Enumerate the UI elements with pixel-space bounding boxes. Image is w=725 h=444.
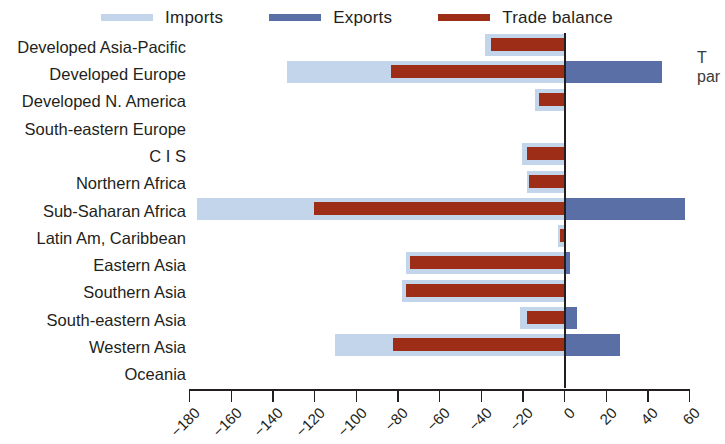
- legend-label-imports: Imports: [165, 9, 223, 26]
- plot-area: [189, 33, 689, 388]
- bar-balance-1: [391, 65, 564, 78]
- bar-row: [189, 115, 689, 142]
- bar-balance-10: [527, 311, 565, 324]
- legend-swatch-exports: [269, 14, 321, 21]
- bar-row: [189, 170, 689, 197]
- category-label-6: Sub-Saharan Africa: [0, 203, 186, 220]
- cropped-side-note: T par: [697, 48, 725, 86]
- x-tick-label-0: −180: [147, 404, 203, 444]
- bar-row: [189, 60, 689, 87]
- bar-balance-5: [529, 175, 564, 188]
- x-tick-5: [397, 389, 398, 402]
- x-tick-9: [564, 389, 565, 402]
- bar-exports-1: [564, 61, 662, 83]
- legend-swatch-imports: [101, 14, 153, 21]
- x-tick-8: [522, 389, 523, 402]
- legend-label-balance: Trade balance: [502, 9, 613, 26]
- bar-balance-11: [393, 338, 564, 351]
- bar-balance-2: [539, 93, 564, 106]
- x-tick-12: [689, 389, 690, 402]
- legend-item-imports: Imports: [101, 9, 223, 26]
- category-label-7: Latin Am, Caribbean: [0, 230, 186, 247]
- bar-row: [189, 142, 689, 169]
- bar-row: [189, 33, 689, 60]
- side-note-line-1: T: [697, 48, 725, 67]
- bar-row: [189, 306, 689, 333]
- bar-row: [189, 251, 689, 278]
- chart-legend: ImportsExportsTrade balance: [0, 4, 714, 30]
- zero-axis-line: [564, 33, 566, 388]
- bar-row: [189, 333, 689, 360]
- category-label-4: C I S: [0, 148, 186, 165]
- bar-row: [189, 197, 689, 224]
- category-label-11: Western Asia: [0, 339, 186, 356]
- x-tick-6: [439, 389, 440, 402]
- category-label-9: Southern Asia: [0, 284, 186, 301]
- bar-row: [189, 224, 689, 251]
- bar-rows: [189, 33, 689, 388]
- category-label-1: Developed Europe: [0, 66, 186, 83]
- category-label-5: Northern Africa: [0, 175, 186, 192]
- x-tick-10: [606, 389, 607, 402]
- x-tick-11: [647, 389, 648, 402]
- bar-row: [189, 88, 689, 115]
- category-label-8: Eastern Asia: [0, 257, 186, 274]
- x-tick-3: [314, 389, 315, 402]
- bar-exports-10: [564, 307, 577, 329]
- category-axis-labels: Developed Asia-PacificDeveloped EuropeDe…: [0, 33, 186, 388]
- bar-exports-11: [564, 334, 620, 356]
- bar-balance-4: [527, 147, 565, 160]
- bar-balance-6: [314, 202, 564, 215]
- side-note-line-2: par: [697, 67, 725, 86]
- x-tick-0: [189, 389, 190, 402]
- x-tick-7: [481, 389, 482, 402]
- category-label-10: South-eastern Asia: [0, 312, 186, 329]
- category-label-12: Oceania: [0, 366, 186, 383]
- category-label-2: Developed N. America: [0, 93, 186, 110]
- category-label-0: Developed Asia-Pacific: [0, 39, 186, 56]
- bar-row: [189, 279, 689, 306]
- bar-balance-8: [410, 256, 564, 269]
- legend-item-balance: Trade balance: [438, 9, 613, 26]
- bar-balance-9: [406, 284, 564, 297]
- x-tick-4: [356, 389, 357, 402]
- bar-balance-0: [491, 38, 564, 51]
- bar-exports-6: [564, 198, 685, 220]
- legend-item-exports: Exports: [269, 9, 392, 26]
- legend-swatch-balance: [438, 14, 490, 21]
- x-tick-2: [272, 389, 273, 402]
- legend-label-exports: Exports: [333, 9, 392, 26]
- x-tick-1: [231, 389, 232, 402]
- category-label-3: South-eastern Europe: [0, 121, 186, 138]
- bar-row: [189, 361, 689, 388]
